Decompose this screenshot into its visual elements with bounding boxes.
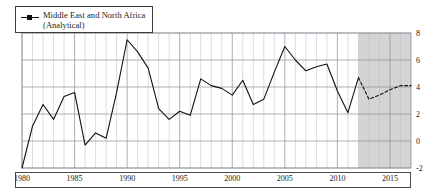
legend-label: Middle East and North Africa (Analytical… (43, 10, 145, 30)
chart-legend: Middle East and North Africa (Analytical… (15, 6, 153, 33)
x-tick-1995: 1995 (172, 174, 188, 183)
chart-series-lines (22, 40, 411, 168)
y-tick--2: -2 (416, 164, 423, 173)
legend-line-marker-icon (21, 13, 39, 22)
x-tick-2010: 2010 (329, 174, 345, 183)
y-tick-8: 8 (416, 29, 420, 38)
y-tick-4: 4 (416, 83, 420, 92)
x-tick-2005: 2005 (277, 174, 293, 183)
x-tick-2000: 2000 (224, 174, 240, 183)
y-tick-6: 6 (416, 56, 420, 65)
x-tick-2015: 2015 (382, 174, 398, 183)
x-tick-1990: 1990 (119, 174, 135, 183)
chart-gridlines (22, 33, 411, 168)
y-tick-2: 2 (416, 110, 420, 119)
chart-container: Middle East and North Africa (Analytical… (0, 0, 432, 192)
plot-area-frame (22, 33, 411, 168)
x-tick-1985: 1985 (67, 174, 83, 183)
legend-entry-mena: Middle East and North Africa (Analytical… (21, 10, 145, 30)
y-tick-0: 0 (416, 137, 420, 146)
x-tick-1980: 1980 (14, 174, 30, 183)
forecast-shading-band (358, 33, 411, 168)
